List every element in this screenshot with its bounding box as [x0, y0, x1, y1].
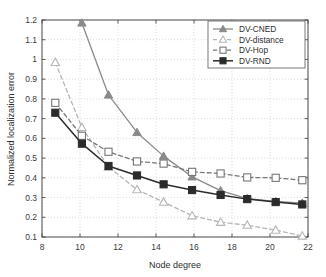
data-marker-square-filled: [105, 162, 112, 169]
data-marker-square-open: [189, 168, 196, 175]
data-marker-square-open: [217, 170, 224, 177]
data-marker-square-filled: [244, 196, 251, 203]
data-marker-square-open: [52, 99, 59, 106]
y-tick-label: 1.2: [25, 15, 37, 25]
y-axis-label: Normalized localization error: [6, 72, 16, 186]
data-marker-square-open: [299, 177, 306, 184]
x-tick-label: 10: [75, 242, 85, 252]
y-tick-label: 0.3: [25, 193, 37, 203]
legend-label-dv-hop[interactable]: DV-Hop: [239, 45, 268, 55]
x-tick-label: 18: [227, 242, 237, 252]
legend-label-dv-distance[interactable]: DV-distance: [239, 35, 284, 45]
x-tick-label: 12: [113, 242, 123, 252]
data-marker-square-open: [220, 47, 226, 53]
x-tick-label: 8: [40, 242, 45, 252]
data-marker-square-open: [244, 174, 251, 181]
data-marker-square-filled: [133, 172, 140, 179]
y-tick-label: 0.8: [25, 94, 37, 104]
y-tick-label: 0.9: [25, 74, 37, 84]
chart-legend[interactable]: DV-CNEDDV-distanceDV-HopDV-RND: [208, 21, 305, 68]
data-marker-square-open: [105, 148, 112, 155]
x-tick-label: 16: [189, 242, 199, 252]
y-tick-label: 0.4: [25, 173, 37, 183]
legend-label-dv-rnd[interactable]: DV-RND: [239, 56, 271, 66]
data-marker-square-filled: [189, 186, 196, 193]
chart-figure: 0.10.20.30.40.50.60.70.80.911.11.2810121…: [0, 0, 326, 277]
x-tick-label: 14: [151, 242, 161, 252]
data-marker-square-open: [272, 174, 279, 181]
data-marker-square-open: [160, 160, 167, 167]
line-chart: 0.10.20.30.40.50.60.70.80.911.11.2810121…: [0, 0, 326, 277]
data-marker-square-filled: [217, 191, 224, 198]
y-tick-label: 0.2: [25, 212, 37, 222]
y-tick-label: 1.1: [25, 35, 37, 45]
data-marker-square-filled: [78, 140, 85, 147]
data-marker-square-filled: [52, 109, 59, 116]
y-tick-label: 0.7: [25, 114, 37, 124]
x-tick-label: 22: [303, 242, 313, 252]
y-tick-label: 0.1: [25, 232, 37, 242]
data-marker-square-filled: [160, 181, 167, 188]
data-marker-square-open: [133, 158, 140, 165]
y-tick-label: 0.6: [25, 133, 37, 143]
y-tick-label: 1: [32, 54, 37, 64]
data-marker-square-filled: [220, 58, 226, 64]
data-marker-square-open: [78, 132, 85, 139]
x-tick-label: 20: [265, 242, 275, 252]
x-axis-label: Node degree: [149, 260, 201, 270]
y-tick-label: 0.5: [25, 153, 37, 163]
legend-label-dv-cned[interactable]: DV-CNED: [239, 24, 276, 34]
data-marker-square-filled: [299, 201, 306, 208]
data-marker-square-filled: [272, 199, 279, 206]
